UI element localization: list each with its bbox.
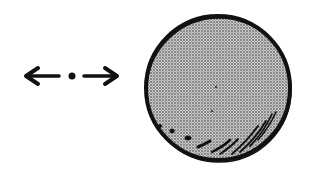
diagram-canvas [0,0,309,176]
bidirectional-dot-symbol [26,68,117,84]
right-arrow-icon [84,68,117,84]
shaded-sphere [146,16,291,162]
left-arrow-icon [26,68,59,84]
dot-icon [69,73,76,80]
